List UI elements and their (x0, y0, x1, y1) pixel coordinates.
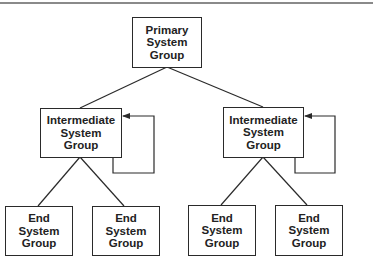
node-end-1: End System Group (5, 206, 73, 256)
node-label-line: End (211, 212, 233, 225)
node-label-line: Group (64, 139, 99, 152)
node-end-3: End System Group (188, 205, 256, 256)
node-label-line: Primary (146, 24, 189, 37)
node-primary-system-group: Primary System Group (132, 17, 202, 68)
node-label-line: Group (292, 237, 327, 250)
node-label-line: System (289, 224, 330, 237)
node-label-line: System (202, 224, 243, 237)
node-label-line: Group (246, 139, 281, 152)
node-label-line: Intermediate (229, 114, 297, 127)
edge-primary-intermediate-right (167, 67, 263, 107)
node-label-line: Group (150, 49, 185, 62)
edge-intermediate-right-end-3 (221, 157, 263, 205)
node-label-line: End (298, 212, 320, 225)
node-end-2: End System Group (92, 206, 160, 256)
node-label-line: Group (205, 237, 240, 250)
edge-intermediate-left-end-2 (80, 157, 124, 206)
edge-primary-intermediate-left (80, 67, 167, 108)
node-label-line: Group (109, 237, 144, 250)
node-label-line: End (28, 212, 50, 225)
node-label-line: System (147, 36, 188, 49)
edge-intermediate-left-end-1 (38, 157, 80, 206)
node-intermediate-left: Intermediate System Group (40, 108, 122, 158)
node-label-line: System (243, 126, 284, 139)
node-label-line: Group (22, 237, 57, 250)
node-label-line: End (115, 212, 137, 225)
node-label-line: System (106, 225, 147, 238)
node-intermediate-right: Intermediate System Group (223, 107, 304, 158)
node-end-4: End System Group (275, 205, 343, 256)
node-label-line: System (19, 225, 60, 238)
node-label-line: System (61, 127, 102, 140)
node-label-line: Intermediate (47, 114, 115, 127)
edge-intermediate-right-end-4 (263, 157, 307, 205)
